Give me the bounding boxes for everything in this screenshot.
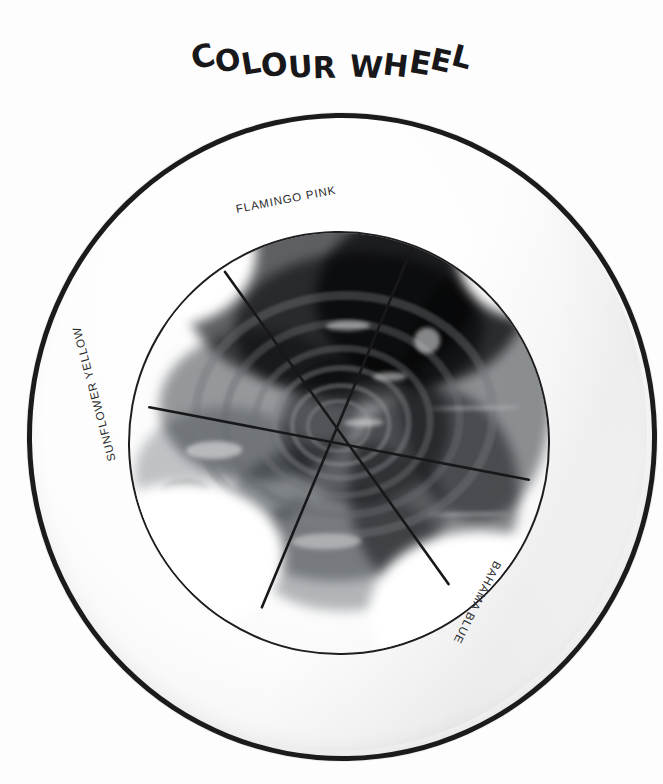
title-letter: W	[349, 51, 384, 83]
title-letter: E	[428, 44, 454, 78]
wheel-spoke-c	[149, 401, 528, 487]
title-letter: O	[259, 48, 289, 82]
wheel-spoke-b	[256, 249, 418, 608]
title-letter: R	[313, 53, 337, 84]
title-letter: L	[239, 47, 263, 80]
colour-wheel-poster: COLOURWHEEL	[0, 0, 663, 784]
page-title: COLOURWHEEL	[0, 46, 663, 108]
title-letter: E	[407, 46, 433, 81]
title-letter: L	[448, 40, 474, 74]
title-letter: U	[287, 51, 313, 83]
title-letter: C	[188, 39, 218, 75]
title-letter: O	[213, 43, 244, 78]
title-letter: H	[382, 49, 410, 82]
